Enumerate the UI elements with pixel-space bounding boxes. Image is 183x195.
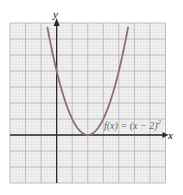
- function-label: f(x) = (x − 2)2: [104, 118, 161, 132]
- function-label-base: f(x) = (x − 2): [104, 120, 158, 132]
- parabola-graph: x y f(x) = (x − 2)2: [0, 0, 183, 195]
- x-axis-label: x: [167, 129, 173, 141]
- function-label-exponent: 2: [157, 118, 161, 126]
- plot-area: x y f(x) = (x − 2)2: [0, 0, 183, 195]
- y-axis-label: y: [52, 8, 58, 20]
